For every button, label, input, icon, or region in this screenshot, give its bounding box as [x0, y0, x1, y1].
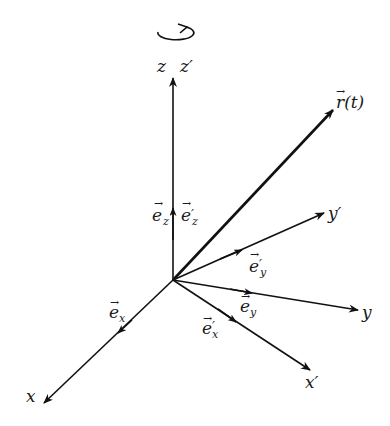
y-axis [173, 280, 358, 310]
r-arrow-glyph: → [336, 85, 345, 98]
ey-prime-unit-vector [220, 250, 242, 259]
svg-text:e: e [109, 302, 119, 322]
ex-prime-label: → e ′ x [202, 312, 219, 341]
svg-text:e: e [181, 205, 191, 225]
rotation-arrow-icon [158, 24, 194, 40]
svg-text:e: e [249, 256, 259, 276]
svg-text:e: e [202, 318, 212, 338]
ex-prime-unit-vector [218, 309, 236, 322]
ez-label: → e z [152, 197, 169, 228]
svg-text:x: x [119, 312, 126, 325]
svg-text:y: y [259, 266, 267, 279]
y-label: y [361, 302, 372, 322]
y-prime-label: y′ [327, 203, 342, 223]
x-label: x [26, 386, 36, 406]
svg-text:e: e [240, 296, 250, 316]
svg-text:y: y [249, 306, 257, 319]
svg-text:z: z [162, 215, 169, 228]
x-axis [44, 280, 173, 403]
svg-text:z: z [191, 215, 198, 228]
ey-label: → e y [240, 290, 257, 319]
ey-prime-label: → e ′ y [249, 248, 267, 279]
svg-text:x: x [212, 328, 219, 341]
rotating-frame-diagram: z z′ r(t) → y′ y x′ x → e z → e ′ z → e … [0, 0, 390, 426]
z-prime-label: z′ [179, 56, 193, 76]
ez-prime-label: → e ′ z [181, 197, 198, 228]
z-label: z [156, 56, 167, 76]
svg-text:e: e [152, 205, 162, 225]
ex-label: → e x [109, 296, 126, 325]
x-prime-label: x′ [305, 372, 319, 392]
